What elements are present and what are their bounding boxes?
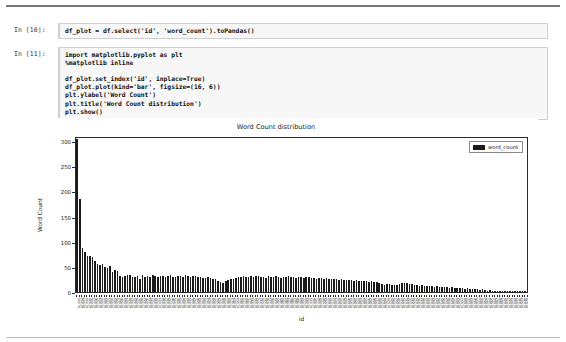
x-tick-mark <box>217 295 218 297</box>
bar <box>300 277 302 292</box>
x-tick-mark <box>280 295 281 297</box>
x-tick-mark <box>351 295 352 297</box>
bar <box>152 275 154 292</box>
bar <box>222 283 224 292</box>
bar <box>172 277 174 292</box>
x-tick-mark <box>89 295 90 297</box>
x-tick-mark <box>81 295 82 297</box>
x-tick-mark <box>466 295 467 297</box>
code-text-in-10: df_plot = df.select('id', 'word_count').… <box>65 27 542 35</box>
x-tick-mark <box>169 295 170 297</box>
x-tick-mark <box>386 295 387 297</box>
bar <box>265 278 267 292</box>
bar <box>404 283 406 292</box>
bar <box>484 290 486 292</box>
bar <box>167 276 169 292</box>
x-tick-mark <box>474 295 475 297</box>
y-tick-label: 200 <box>61 189 71 195</box>
x-tick-mark <box>368 295 369 297</box>
cell-prompt-in-10: In [10]: <box>14 23 58 34</box>
x-tick-mark <box>192 295 193 297</box>
bar <box>426 286 428 292</box>
x-tick-mark <box>524 295 525 297</box>
x-tick-mark <box>313 295 314 297</box>
bar <box>328 279 330 292</box>
x-tick-mark <box>446 295 447 297</box>
x-tick-mark <box>197 295 198 297</box>
x-tick-mark <box>278 295 279 297</box>
x-tick-mark <box>119 295 120 297</box>
bar <box>399 284 401 292</box>
bar <box>290 277 292 292</box>
bar <box>190 277 192 292</box>
bar <box>396 285 398 292</box>
bar <box>124 276 126 292</box>
x-tick-mark <box>101 295 102 297</box>
bar <box>341 279 343 292</box>
x-tick-mark <box>476 295 477 297</box>
x-tick-mark <box>273 295 274 297</box>
x-tick-mark <box>159 295 160 297</box>
x-tick-mark <box>408 295 409 297</box>
bar <box>467 288 469 292</box>
bar <box>97 264 99 292</box>
bar <box>492 291 494 293</box>
top-divider <box>6 5 560 7</box>
x-tick-mark <box>353 295 354 297</box>
x-tick-mark <box>86 295 87 297</box>
code-editor-in-10[interactable]: df_plot = df.select('id', 'word_count').… <box>58 23 548 39</box>
bar <box>509 291 511 292</box>
bar <box>240 277 242 292</box>
x-tick-mark <box>235 295 236 297</box>
bar <box>494 291 496 293</box>
x-tick-mark <box>461 295 462 297</box>
bar <box>215 279 217 292</box>
bar <box>336 279 338 292</box>
bar <box>285 277 287 292</box>
bar <box>527 291 528 292</box>
x-tick-mark <box>298 295 299 297</box>
bar <box>502 291 504 292</box>
bar <box>348 280 350 292</box>
x-tick-mark <box>300 295 301 297</box>
bar <box>238 277 240 292</box>
bar <box>180 276 182 292</box>
bar <box>122 277 124 292</box>
x-tick-mark <box>333 295 334 297</box>
x-tick-mark <box>361 295 362 297</box>
x-tick-mark <box>512 295 513 297</box>
x-tick-mark <box>431 295 432 297</box>
bar <box>313 278 315 292</box>
bar <box>343 280 345 292</box>
y-tick-label: 300 <box>61 139 71 145</box>
bar <box>260 277 262 292</box>
bar <box>162 276 164 292</box>
notebook-cell-in-11[interactable]: In [11]: import matplotlib.pyplot as plt… <box>14 47 548 120</box>
notebook-cell-in-10[interactable]: In [10]: df_plot = df.select('id', 'word… <box>14 23 548 39</box>
bar <box>170 275 172 292</box>
x-tick-mark <box>106 295 107 297</box>
bar <box>117 271 119 292</box>
bar <box>363 281 365 292</box>
x-tick-mark <box>268 295 269 297</box>
bar <box>517 291 519 292</box>
bar <box>160 276 162 292</box>
bar <box>109 266 111 292</box>
bar <box>275 276 277 292</box>
bar <box>414 285 416 292</box>
bottom-divider <box>6 337 560 338</box>
x-tick-mark <box>184 295 185 297</box>
bar <box>263 277 265 292</box>
bar <box>295 278 297 292</box>
x-tick-mark <box>164 295 165 297</box>
x-tick-mark <box>305 295 306 297</box>
bar <box>424 286 426 292</box>
bar <box>76 139 78 292</box>
bar <box>487 291 489 293</box>
code-editor-in-11[interactable]: import matplotlib.pyplot as plt %matplot… <box>58 47 548 120</box>
bar <box>258 276 260 292</box>
bar <box>449 288 451 292</box>
bar <box>243 276 245 292</box>
bar <box>456 288 458 292</box>
chart-title: Word Count distribution <box>14 123 538 131</box>
